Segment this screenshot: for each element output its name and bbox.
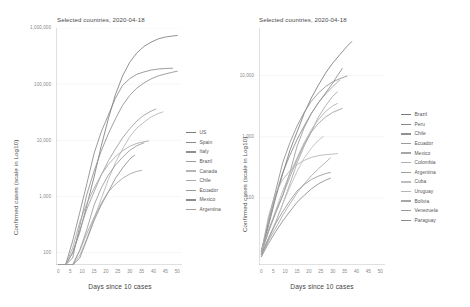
- legend-line-icon: [401, 172, 411, 173]
- legend-line-icon: [401, 133, 411, 134]
- legend-item[interactable]: Uruguay: [401, 187, 438, 197]
- legend-label: Colombia: [415, 160, 436, 165]
- legend-label: Mexico: [415, 151, 431, 156]
- legend-line-icon: [186, 190, 196, 191]
- y-axis-label-left: Confirmed cases (scale in Log10): [12, 140, 19, 235]
- chart-panel-right: Selected countries, 2020-04-18 Confirmed…: [235, 0, 470, 307]
- legend-item[interactable]: Bolivia: [401, 196, 438, 206]
- y-tick-label: 100: [22, 250, 51, 255]
- legend-item[interactable]: Chile: [401, 129, 438, 139]
- legend-line-icon: [401, 152, 411, 153]
- chart-title-right: Selected countries, 2020-04-18: [259, 16, 347, 23]
- legend-item[interactable]: Peru: [401, 120, 438, 130]
- legend-line-icon: [401, 191, 411, 192]
- figure-root: Selected countries, 2020-04-18 Confirmed…: [0, 0, 470, 307]
- legend-label: Peru: [415, 122, 426, 127]
- y-tick-label: 10,000: [22, 138, 51, 143]
- plot-area-left: [56, 28, 182, 265]
- chart-panel-left: Selected countries, 2020-04-18 Confirmed…: [0, 0, 235, 307]
- legend-label: Brazil: [200, 159, 213, 164]
- x-tick-label: 50: [372, 269, 388, 274]
- legend-label: Chile: [200, 178, 211, 183]
- legend-item[interactable]: Spain: [186, 138, 221, 148]
- legend-label: Ecuador: [200, 188, 219, 193]
- legend-line-icon: [401, 124, 411, 125]
- legend-line-icon: [401, 162, 411, 163]
- legend-label: Spain: [200, 140, 213, 145]
- legend-label: Venezuela: [415, 208, 438, 213]
- legend-item[interactable]: Chile: [186, 176, 221, 186]
- y-tick-label: 10,000: [225, 73, 254, 78]
- y-tick-label: 1,000: [22, 194, 51, 199]
- legend-line-icon: [186, 209, 196, 210]
- legend-line-icon: [401, 143, 411, 144]
- legend-line-icon: [186, 142, 196, 143]
- legend-right: BrazilPeruChileEcuadorMexicoColombiaArge…: [401, 110, 438, 225]
- legend-label: Uruguay: [415, 189, 434, 194]
- legend-line-icon: [401, 210, 411, 211]
- legend-label: Argentina: [415, 170, 436, 175]
- legend-item[interactable]: Argentina: [186, 205, 221, 215]
- legend-label: Ecuador: [415, 141, 434, 146]
- legend-line-icon: [401, 181, 411, 182]
- legend-item[interactable]: Venezuela: [401, 206, 438, 216]
- legend-item[interactable]: Ecuador: [401, 139, 438, 149]
- x-axis-label-right: Days since 10 cases: [257, 283, 387, 290]
- legend-item[interactable]: Brazil: [186, 157, 221, 167]
- legend-label: Brazil: [415, 112, 428, 117]
- legend-left: USSpainItalyBrazilCanadaChileEcuadorMexi…: [186, 128, 221, 214]
- legend-line-icon: [186, 161, 196, 162]
- legend-line-icon: [401, 114, 411, 115]
- legend-item[interactable]: Canada: [186, 166, 221, 176]
- y-tick-label: 100,000: [22, 82, 51, 87]
- legend-item[interactable]: Brazil: [401, 110, 438, 120]
- y-axis-label-right: Confirmed cases (scale in Log10): [241, 137, 248, 232]
- legend-line-icon: [186, 180, 196, 181]
- legend-item[interactable]: Colombia: [401, 158, 438, 168]
- legend-line-icon: [186, 199, 196, 200]
- x-axis-label-left: Days since 10 cases: [55, 283, 185, 290]
- legend-line-icon: [186, 170, 196, 171]
- x-tick-label: 50: [169, 269, 185, 274]
- legend-item[interactable]: Paraguay: [401, 216, 438, 226]
- y-tick-label: 1,000,000: [22, 25, 51, 30]
- y-tick-label: 1,000: [225, 134, 254, 139]
- legend-item[interactable]: Argentina: [401, 168, 438, 178]
- legend-label: Mexico: [200, 197, 216, 202]
- legend-label: Cuba: [415, 179, 427, 184]
- legend-label: Bolivia: [415, 199, 430, 204]
- chart-title-left: Selected countries, 2020-04-18: [57, 16, 145, 23]
- legend-label: Canada: [200, 169, 217, 174]
- legend-item[interactable]: Ecuador: [186, 186, 221, 196]
- y-tick-label: 100: [225, 195, 254, 200]
- legend-label: US: [200, 130, 207, 135]
- legend-item[interactable]: Mexico: [186, 195, 221, 205]
- legend-label: Italy: [200, 149, 209, 154]
- legend-item[interactable]: US: [186, 128, 221, 138]
- legend-line-icon: [186, 132, 196, 133]
- legend-line-icon: [401, 220, 411, 221]
- legend-item[interactable]: Italy: [186, 147, 221, 157]
- legend-line-icon: [186, 151, 196, 152]
- legend-label: Argentina: [200, 207, 221, 212]
- plot-area-right: [259, 28, 385, 265]
- legend-item[interactable]: Cuba: [401, 177, 438, 187]
- legend-label: Paraguay: [415, 218, 436, 223]
- legend-label: Chile: [415, 131, 426, 136]
- legend-line-icon: [401, 200, 411, 201]
- legend-item[interactable]: Mexico: [401, 148, 438, 158]
